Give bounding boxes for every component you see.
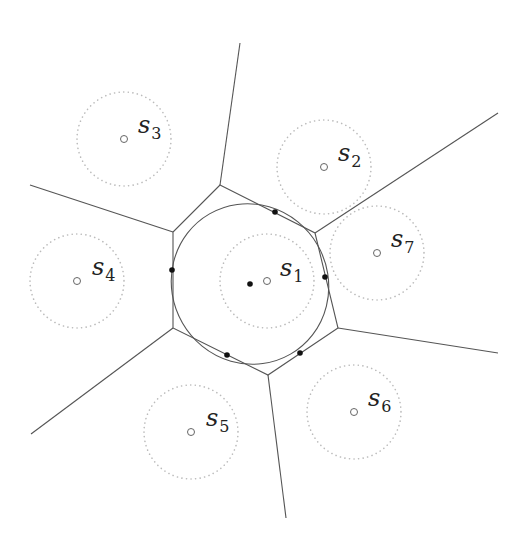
site-label-s3: s3: [138, 111, 162, 143]
site-marker-s4: [74, 278, 81, 285]
tangent-points: [169, 209, 328, 358]
voronoi-diagram: s1s2s3s4s5s6s7: [0, 0, 524, 545]
voronoi-edge: [338, 328, 498, 353]
site-label-s7: s7: [391, 225, 415, 257]
site-marker-s6: [351, 409, 358, 416]
site-label-s4: s4: [92, 253, 116, 285]
voronoi-edge: [220, 43, 240, 185]
site-label-s6: s6: [368, 384, 392, 416]
site-marker-s7: [374, 250, 381, 257]
site-marker-s2: [321, 164, 328, 171]
tangent-point: [224, 352, 230, 358]
site-marker-s3: [121, 136, 128, 143]
site-labels: s1s2s3s4s5s6s7: [92, 111, 415, 436]
site-label-s5: s5: [206, 404, 230, 436]
site-label-s2: s2: [338, 139, 362, 171]
tangent-point: [297, 350, 303, 356]
site-marker-s1: [264, 278, 271, 285]
sites: [74, 136, 381, 436]
center-point: [247, 281, 253, 287]
tangent-point: [169, 267, 175, 273]
site-label-s1: s1: [280, 254, 304, 286]
voronoi-edge: [31, 328, 173, 434]
voronoi-edge: [315, 113, 498, 233]
voronoi-edge: [268, 375, 286, 518]
voronoi-edge: [30, 185, 173, 232]
tangent-point: [272, 209, 278, 215]
site-marker-s5: [188, 429, 195, 436]
voronoi-cell-s1: [173, 185, 338, 375]
tangent-point: [322, 274, 328, 280]
